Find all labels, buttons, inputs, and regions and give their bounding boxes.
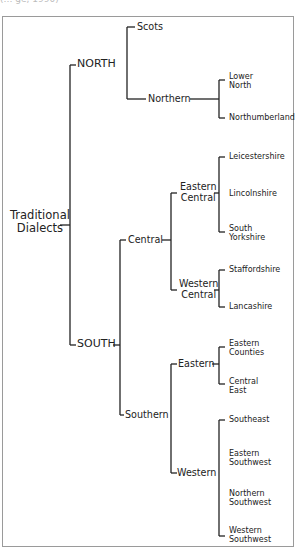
node-label-line: Yorkshire xyxy=(229,233,265,242)
node-label-line: Eastern xyxy=(180,181,216,192)
node-western: Western xyxy=(177,467,216,478)
leaf-lincolnshire: Lincolnshire xyxy=(229,189,277,198)
leaf-western-southwest: Western Southwest xyxy=(229,526,271,544)
leaf-northumberland: Northumberland xyxy=(229,113,295,122)
leaf-lower-north: Lower North xyxy=(229,72,253,90)
node-eastern: Eastern xyxy=(178,358,214,369)
node-south: SOUTH xyxy=(77,338,116,351)
node-label-line: Counties xyxy=(229,348,264,357)
node-label-line: Western xyxy=(229,526,271,535)
leaf-southeast: Southeast xyxy=(229,415,269,424)
node-label-line: Dialects xyxy=(10,222,70,235)
node-label-line: South xyxy=(229,224,265,233)
node-label-line: North xyxy=(229,81,253,90)
node-scots: Scots xyxy=(137,21,163,32)
node-label-line: Western xyxy=(179,278,218,289)
node-label-line: Southwest xyxy=(229,535,271,544)
node-label-line: Eastern xyxy=(229,339,264,348)
node-northern: Northern xyxy=(148,93,191,104)
leaf-lancashire: Lancashire xyxy=(229,302,272,311)
node-label-line: Lower xyxy=(229,72,253,81)
node-label-line: Central xyxy=(229,377,258,386)
node-label-line: Southwest xyxy=(229,498,271,507)
leaf-northern-southwest: Northern Southwest xyxy=(229,489,271,507)
leaf-south-yorkshire: South Yorkshire xyxy=(229,224,265,242)
node-western-central: Western Central xyxy=(179,278,218,300)
node-label-line: East xyxy=(229,386,258,395)
node-southern: Southern xyxy=(125,409,169,420)
node-central: Central xyxy=(128,234,163,245)
leaf-eastern-counties: Eastern Counties xyxy=(229,339,264,357)
leaf-leicestershire: Leicestershire xyxy=(229,152,285,161)
node-label-line: Central xyxy=(179,289,218,300)
node-north: NORTH xyxy=(77,58,116,71)
leaf-central-east: Central East xyxy=(229,377,258,395)
node-label-line: Southwest xyxy=(229,458,271,467)
node-label-line: Northern xyxy=(229,489,271,498)
leaf-eastern-southwest: Eastern Southwest xyxy=(229,449,271,467)
node-label-line: Eastern xyxy=(229,449,271,458)
node-label-line: Central xyxy=(180,192,216,203)
node-eastern-central: Eastern Central xyxy=(180,181,216,203)
node-traditional-dialects: Traditional Dialects xyxy=(10,209,70,235)
leaf-staffordshire: Staffordshire xyxy=(229,265,280,274)
